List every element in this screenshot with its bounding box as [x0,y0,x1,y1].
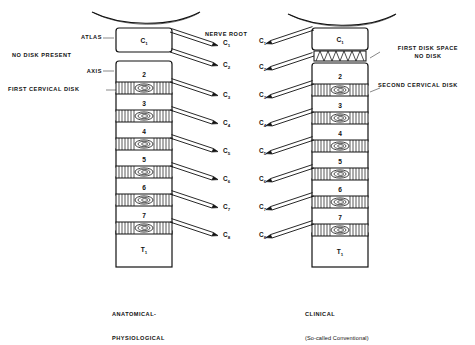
vertebra-label-3: 3 [142,100,146,107]
disk-2-3-clinical [312,84,368,96]
caption-left-line2: PHYSIOLOGICAL [112,334,202,342]
nerve-root-line-c7-clinical [266,193,314,210]
skull-base-curve-clinical [288,14,396,25]
left-spine-column [92,12,218,267]
disk-4-5 [116,138,172,150]
vertebra-label-4-clinical: 4 [338,130,342,137]
caption-anatomical-physiological: ANATOMICAL- PHYSIOLOGICAL [112,294,202,345]
nerve-root-label-c6: C6 [223,175,230,184]
disk-4-5-clinical [312,140,368,152]
nerve-root-label-c4-clinical: C4 [259,119,266,128]
nerve-root-line-c3 [170,79,218,96]
vertebra-label-7: 7 [142,212,146,219]
nerve-root-line-c8 [170,219,218,236]
nerve-root-label-c4: C4 [223,119,230,128]
vertebra-label-5-clinical: 5 [338,158,342,165]
nerve-root-label-c7-clinical: C7 [259,203,266,212]
nerve-root-label-c3: C3 [223,91,230,100]
vertebra-label-7-clinical: 7 [338,214,342,221]
disk-7-t1-clinical [312,224,368,236]
disk-space-c1-2-no-disk [314,51,366,61]
nerve-root-line-c2 [170,49,218,66]
disk-5-6 [116,166,172,178]
nerve-root-line-c7 [170,191,218,208]
disk-2-3 [116,82,172,94]
caption-clinical: CLINICAL (So-called Conventional) [305,294,415,345]
nerve-root-line-c2-clinical [266,53,314,70]
caption-left-line1: ANATOMICAL- [112,310,202,318]
nerve-root-label-c5-clinical: C5 [259,147,266,156]
vertebra-label-4: 4 [142,128,146,135]
annotation-second-cervical-disk: SECOND CERVICAL DISK [378,82,475,90]
annotation-no-disk-present: NO DISK PRESENT [12,52,122,60]
nerve-root-label-c8-clinical: C8 [259,231,266,240]
caption-right-line2: (So-called Conventional) [305,334,415,342]
nerve-root-label-c1: C1 [223,39,230,48]
nerve-root-label-c2: C2 [223,61,230,70]
nerve-root-label-c7: C7 [223,203,230,212]
nerve-root-line-c5 [170,135,218,152]
annotation-first-disk-space-no-disk: FIRST DISK SPACE NO DISK [382,45,474,60]
nerve-root-line-c5-clinical [266,137,314,154]
nerve-root-line-c8-clinical [266,221,314,238]
vertebra-label-2-clinical: 2 [338,73,342,80]
annotation-axis: AXIS [10,68,102,76]
nerve-root-line-c1-clinical [266,27,314,44]
caption-right-line1: CLINICAL [305,310,415,318]
right-spine-column [266,14,396,267]
nerve-root-label-c6-clinical: C6 [259,175,266,184]
nerve-root-line-c4 [170,107,218,124]
annotation-atlas: ATLAS [10,34,102,42]
nerve-root-line-c3-clinical [266,81,314,98]
disk-6-7 [116,194,172,206]
nerve-root-label-c8: C8 [223,231,230,240]
nerve-root-title: NERVE ROOT [205,31,265,39]
disk-3-4-clinical [312,112,368,124]
disk-5-6-clinical [312,168,368,180]
vertebra-label-3-clinical: 3 [338,102,342,109]
vertebra-label-6-clinical: 6 [338,186,342,193]
annotation-first-cervical-disk: FIRST CERVICAL DISK [8,86,120,94]
disk-6-7-clinical [312,196,368,208]
nerve-root-line-c6 [170,163,218,180]
disk-3-4 [116,110,172,122]
nerve-root-label-c1-clinical: C1 [259,37,266,46]
disk-7-t1 [116,222,172,234]
vertebra-label-2: 2 [142,71,146,78]
nerve-root-label-c3-clinical: C3 [259,91,266,100]
vertebra-label-6: 6 [142,184,146,191]
nerve-root-label-c5: C5 [223,147,230,156]
nerve-root-line-c4-clinical [266,109,314,126]
nerve-root-line-c6-clinical [266,165,314,182]
leader-first-disk-space [370,52,380,58]
skull-base-curve [92,12,200,23]
vertebra-label-5: 5 [142,156,146,163]
nerve-root-label-c2-clinical: C2 [259,63,266,72]
